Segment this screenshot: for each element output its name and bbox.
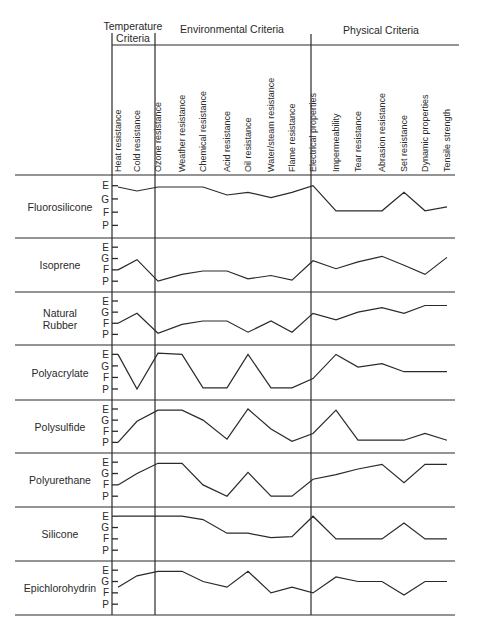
material-label: Fluorosilicone xyxy=(28,201,93,213)
material-row: EGFPPolyacrylate xyxy=(15,349,455,400)
column-header: Heat resistance xyxy=(113,109,123,172)
material-label: Rubber xyxy=(43,319,78,331)
rating-label: E xyxy=(102,296,109,307)
column-header: Abrasion resistance xyxy=(377,93,387,172)
grid-lines xyxy=(15,33,459,615)
material-row: EGFPSilicone xyxy=(15,511,455,561)
rating-label: F xyxy=(103,264,109,275)
rating-label: P xyxy=(102,545,109,556)
column-header: Weather resistance xyxy=(177,95,187,172)
material-label: Epichlorohydrin xyxy=(24,582,97,594)
column-headers: Heat resistanceCold resistanceOzone resi… xyxy=(113,78,452,172)
column-header: Acid resistance xyxy=(222,111,232,172)
column-header: Tensile strength xyxy=(442,109,452,172)
rating-label: P xyxy=(102,384,109,395)
column-header: Flame resistance xyxy=(287,103,297,172)
column-header: Cold resistance xyxy=(132,110,142,172)
column-header: Dynamic properties xyxy=(420,94,430,172)
rating-label: E xyxy=(102,457,109,468)
rating-label: G xyxy=(101,415,109,426)
column-header: Set resistance xyxy=(399,115,409,172)
material-label: Natural xyxy=(43,307,77,319)
column-header: Oil resistance xyxy=(243,117,253,172)
material-row: EGFPEpichlorohydrin xyxy=(15,565,455,615)
rating-label: E xyxy=(102,242,109,253)
rating-label: E xyxy=(102,565,109,576)
rating-label: G xyxy=(101,361,109,372)
rating-label: E xyxy=(102,180,109,191)
material-row: EGFPPolysulfide xyxy=(15,404,455,453)
rating-label: F xyxy=(103,587,109,598)
column-header: Impermeability xyxy=(331,113,341,172)
rating-line xyxy=(118,256,447,281)
rating-label: E xyxy=(102,511,109,522)
material-row: EGFPFluorosilicone xyxy=(15,180,455,238)
rating-label: G xyxy=(101,253,109,264)
column-header: Water/steam resistance xyxy=(266,78,276,172)
rating-label: F xyxy=(103,318,109,329)
material-label: Silicone xyxy=(42,528,79,540)
rating-line xyxy=(118,463,447,496)
rating-label: P xyxy=(102,276,109,287)
group-header-environmental: Environmental Criteria xyxy=(180,23,284,35)
rating-label: F xyxy=(103,372,109,383)
rating-label: G xyxy=(101,522,109,533)
column-header: Chemical resistance xyxy=(198,91,208,172)
rating-label: P xyxy=(102,220,109,231)
group-header-temperature: Criteria xyxy=(116,32,150,44)
rating-label: P xyxy=(102,329,109,340)
rating-label: G xyxy=(101,307,109,318)
rating-label: E xyxy=(102,404,109,415)
rating-label: F xyxy=(103,533,109,544)
rating-label: G xyxy=(101,576,109,587)
rating-label: P xyxy=(102,491,109,502)
material-row: EGFPNaturalRubber xyxy=(15,296,455,345)
group-header-temperature: Temperature xyxy=(104,20,163,32)
elastomer-property-chart: TemperatureCriteriaEnvironmental Criteri… xyxy=(0,0,479,631)
rating-label: P xyxy=(102,599,109,610)
group-header-physical: Physical Criteria xyxy=(343,24,419,36)
rating-label: F xyxy=(103,207,109,218)
material-label: Polyurethane xyxy=(29,474,91,486)
rating-line xyxy=(118,571,447,595)
rating-line xyxy=(118,306,447,334)
rating-label: E xyxy=(102,349,109,360)
material-label: Polysulfide xyxy=(35,421,86,433)
rating-label: F xyxy=(103,479,109,490)
material-rows: EGFPFluorosiliconeEGFPIsopreneEGFPNatura… xyxy=(15,180,455,615)
rating-line xyxy=(118,353,447,389)
rating-line xyxy=(118,186,447,211)
group-headers: TemperatureCriteriaEnvironmental Criteri… xyxy=(104,20,420,44)
rating-label: G xyxy=(101,468,109,479)
rating-line xyxy=(118,409,447,442)
rating-label: G xyxy=(101,194,109,205)
material-label: Polyacrylate xyxy=(31,367,88,379)
rating-label: F xyxy=(103,426,109,437)
material-row: EGFPPolyurethane xyxy=(15,457,455,507)
material-label: Isoprene xyxy=(40,259,81,271)
material-row: EGFPIsoprene xyxy=(15,242,455,292)
column-header: Tear resistance xyxy=(353,111,363,172)
rating-label: P xyxy=(102,437,109,448)
column-header: Electrical properties xyxy=(308,92,318,172)
rating-line xyxy=(118,516,447,539)
